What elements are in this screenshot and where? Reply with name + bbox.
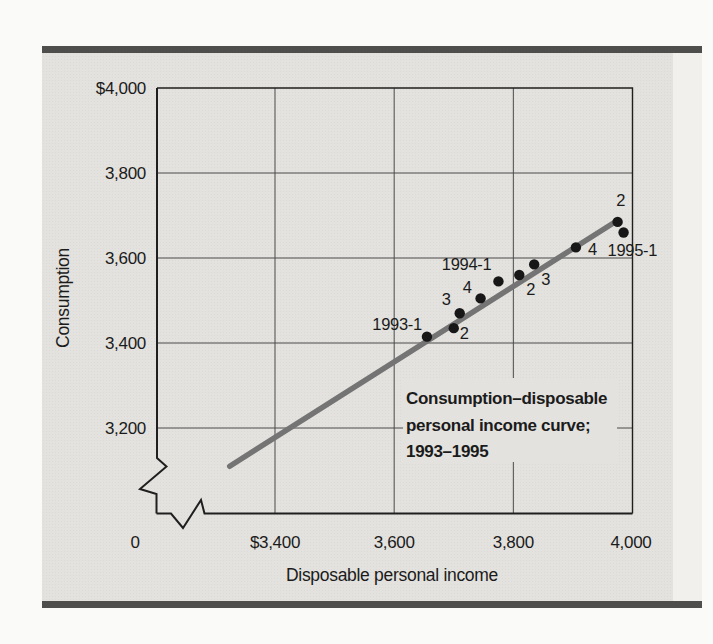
- data-point: [618, 227, 628, 237]
- data-point-label: 3: [541, 270, 550, 288]
- y-tick-label: 3,200: [105, 419, 146, 438]
- y-tick-label: 3,800: [105, 164, 146, 183]
- scatter-chart: 1993-12341994-12341995-12 0$3,4003,6003,…: [0, 0, 713, 644]
- x-tick-labels: 0$3,4003,6003,8004,000: [130, 533, 651, 552]
- data-point: [493, 276, 503, 286]
- data-point-label: 4: [588, 240, 597, 258]
- data-point: [514, 270, 524, 280]
- x-tick-label-origin: 0: [130, 533, 139, 552]
- x-tick-label: 3,600: [374, 533, 415, 552]
- data-point: [529, 259, 539, 269]
- data-point: [449, 323, 459, 333]
- data-point-label: 2: [616, 191, 625, 209]
- x-tick-label: 4,000: [610, 533, 651, 552]
- data-point-label: 2: [526, 280, 535, 298]
- x-tick-label: 3,800: [493, 533, 534, 552]
- data-point-label: 1995-1: [608, 241, 658, 259]
- y-axis-title: Consumption: [53, 248, 73, 348]
- data-point-labels: 1993-12341994-12341995-12: [372, 191, 657, 342]
- page-background: 1993-12341994-12341995-12 0$3,4003,6003,…: [0, 0, 713, 644]
- data-point-label: 1993-1: [372, 315, 422, 333]
- y-tick-label: 3,400: [105, 334, 146, 353]
- annotation-line-1: Consumption–disposable: [406, 389, 607, 408]
- data-point-label: 2: [460, 324, 469, 342]
- annotation-line-3: 1993–1995: [406, 442, 488, 461]
- y-tick-label: $4,000: [96, 79, 146, 98]
- data-point-label: 4: [463, 278, 472, 296]
- data-point-label: 1994-1: [442, 255, 492, 273]
- data-point: [475, 293, 485, 303]
- y-axis: [140, 88, 167, 514]
- annotation-line-2: personal income curve;: [406, 416, 590, 435]
- x-tick-label: $3,400: [250, 533, 300, 552]
- y-tick-label: 3,600: [105, 249, 146, 268]
- data-point: [455, 308, 465, 318]
- data-point: [422, 331, 432, 341]
- data-point-label: 3: [442, 290, 451, 308]
- y-tick-labels: $4,0003,8003,6003,4003,200: [96, 79, 146, 438]
- data-point: [571, 242, 581, 252]
- data-point: [612, 217, 622, 227]
- x-axis-title: Disposable personal income: [286, 565, 498, 585]
